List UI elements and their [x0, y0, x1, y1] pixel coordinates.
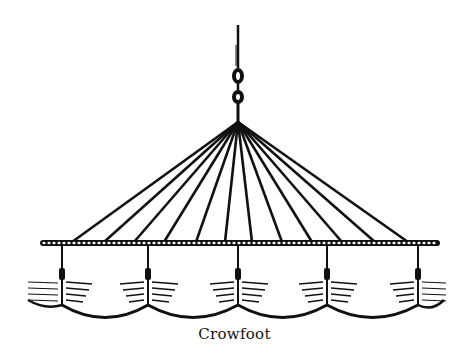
spike-with-rings	[233, 25, 243, 124]
awning-cloth	[28, 245, 446, 318]
figure-caption: Crowfoot	[0, 325, 469, 343]
crowfoot-illustration	[0, 0, 469, 362]
crowfoot-lines	[72, 122, 408, 242]
rope-bar	[40, 240, 440, 246]
